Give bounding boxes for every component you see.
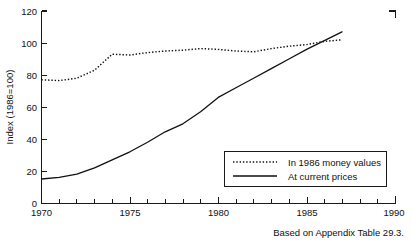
y-tick-label-40: 40 [26,134,37,145]
line-chart: 120 100 80 60 40 20 0 Index (1986=100) [0,0,412,243]
x-tick-label-1990: 1990 [383,207,404,218]
legend-label-at-current-prices: At current prices [288,171,357,182]
y-tick-label-80: 80 [26,70,37,81]
y-tick-label-100: 100 [21,38,37,49]
y-tick-label-120: 120 [21,6,37,17]
x-tick-label-1980: 1980 [208,207,229,218]
x-tick-label-1970: 1970 [31,207,52,218]
y-tick-label-60: 60 [26,102,37,113]
x-tick-label-1975: 1975 [119,207,140,218]
x-tick-label-1985: 1985 [296,207,317,218]
chart-figure: 120 100 80 60 40 20 0 Index (1986=100) [0,0,412,243]
chart-caption: Based on Appendix Table 29.3. [273,227,404,238]
y-axis-title: Index (1986=100) [4,70,15,145]
legend-label-in-1986-money-values: In 1986 money values [288,157,381,168]
y-tick-label-20: 20 [26,166,37,177]
y-tick-labels: 120 100 80 60 40 20 0 [21,6,37,209]
chart-legend: In 1986 money values At current prices [225,152,387,187]
x-tick-labels: 1970 1975 1980 1985 1990 [31,207,405,218]
